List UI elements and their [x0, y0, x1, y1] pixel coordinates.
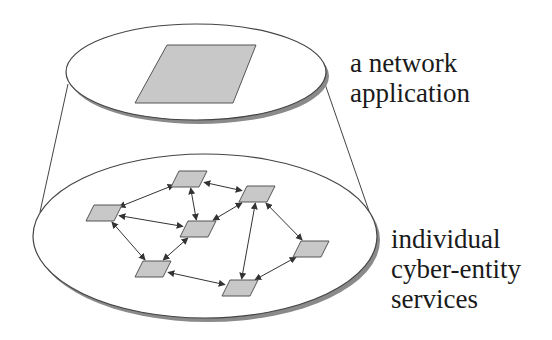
application-layer: [66, 24, 329, 124]
label-line: individual: [391, 224, 521, 254]
label-line: cyber-entity: [391, 254, 521, 284]
label-line: services: [391, 284, 521, 314]
cyber-entity-services-label: individual cyber-entity services: [391, 224, 521, 314]
network-application-label: a network application: [350, 48, 470, 108]
label-line: a network: [350, 48, 470, 78]
label-line: application: [350, 78, 470, 108]
layered-network-diagram: a network application individual cyber-e…: [0, 0, 552, 340]
services-layer: [33, 154, 380, 322]
